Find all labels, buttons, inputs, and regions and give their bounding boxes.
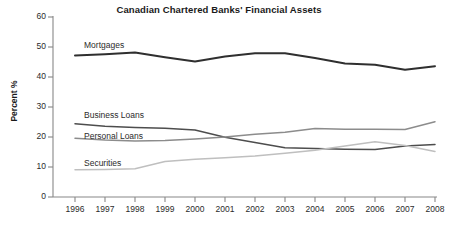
series-line-mortgages xyxy=(75,52,435,69)
series-label-mortgages: Mortgages xyxy=(84,40,124,50)
series-label-business-loans: Business Loans xyxy=(84,110,144,120)
series-label-securities: Securities xyxy=(84,158,121,168)
series-label-personal-loans: Personal Loans xyxy=(84,131,143,141)
series-line-securities xyxy=(75,142,435,170)
